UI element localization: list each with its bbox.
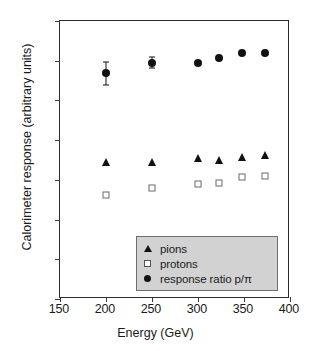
- data-point: [216, 180, 223, 187]
- data-point: [149, 184, 156, 191]
- x-tick-label: 400: [266, 302, 311, 316]
- x-tick-label: 150: [36, 302, 82, 316]
- open-square-icon: [144, 260, 160, 267]
- error-bar-cap: [149, 68, 155, 69]
- y-tick: [55, 61, 60, 62]
- data-point: [262, 172, 269, 179]
- data-point: [215, 156, 223, 164]
- data-point: [148, 59, 156, 67]
- data-point: [148, 158, 156, 166]
- data-point: [194, 154, 202, 162]
- data-point: [195, 181, 202, 188]
- y-tick: [55, 140, 60, 141]
- data-point: [261, 49, 269, 57]
- chart-legend: pionsprotonsresponse ratio p/π: [136, 236, 278, 291]
- legend-item: protons: [137, 256, 277, 271]
- data-point: [102, 158, 110, 166]
- x-axis-title: Energy (GeV): [0, 326, 311, 340]
- filled-triangle-icon: [144, 245, 160, 252]
- y-tick: [55, 220, 60, 221]
- x-tick-label: 350: [220, 302, 266, 316]
- legend-item-label: pions: [160, 243, 187, 255]
- y-axis-title: Calorimeter response (arbitrary units): [20, 2, 34, 292]
- data-point: [238, 153, 246, 161]
- filled-circle-icon: [144, 275, 160, 282]
- data-point: [194, 59, 202, 67]
- data-point: [238, 49, 246, 57]
- legend-item-label: protons: [160, 258, 198, 270]
- error-bar-cap: [103, 84, 109, 85]
- y-tick: [55, 180, 60, 181]
- error-bar-cap: [149, 57, 155, 58]
- error-bar-cap: [103, 62, 109, 63]
- x-tick-label: 250: [128, 302, 174, 316]
- x-tick-label: 300: [174, 302, 220, 316]
- x-tick-label: 200: [82, 302, 128, 316]
- data-point: [261, 151, 269, 159]
- legend-item-label: response ratio p/π: [160, 273, 252, 285]
- data-point: [102, 69, 110, 77]
- data-point: [239, 174, 246, 181]
- data-point: [103, 191, 110, 198]
- figure-canvas: 0.30.40.50.60.70.80.91 15020025030035040…: [0, 0, 311, 351]
- y-tick: [55, 259, 60, 260]
- legend-item: response ratio p/π: [137, 271, 277, 286]
- y-tick: [55, 100, 60, 101]
- y-tick: [55, 21, 60, 22]
- data-point: [215, 54, 223, 62]
- legend-item: pions: [137, 241, 277, 256]
